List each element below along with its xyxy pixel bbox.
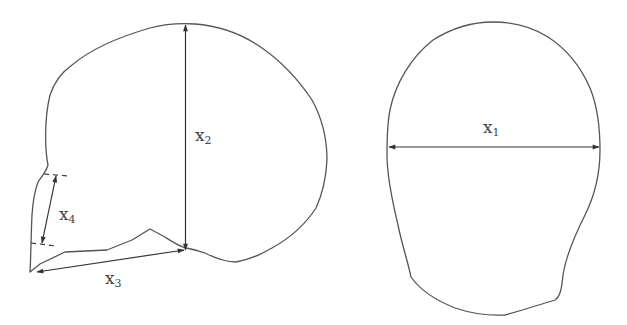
x3-label: x3 — [105, 270, 122, 289]
x1-label: x1 — [483, 119, 500, 138]
x1-label-base: x — [483, 117, 493, 137]
x4-top-dash — [44, 174, 68, 176]
diagram-canvas — [0, 0, 627, 325]
x3-label-sub: 3 — [115, 277, 122, 290]
x4-dimension-arrow — [42, 176, 56, 243]
frontal-skull-outline — [387, 22, 600, 315]
lateral-skull-outline — [30, 24, 327, 272]
x3-label-base: x — [105, 268, 115, 288]
x4-bottom-dash — [31, 243, 56, 246]
x2-label-base: x — [195, 125, 205, 145]
x4-label-base: x — [59, 204, 69, 224]
x4-label: x4 — [59, 206, 76, 225]
x2-label-sub: 2 — [205, 134, 212, 147]
x2-label: x2 — [195, 127, 212, 146]
x4-label-sub: 4 — [69, 213, 76, 226]
x1-label-sub: 1 — [493, 126, 500, 139]
